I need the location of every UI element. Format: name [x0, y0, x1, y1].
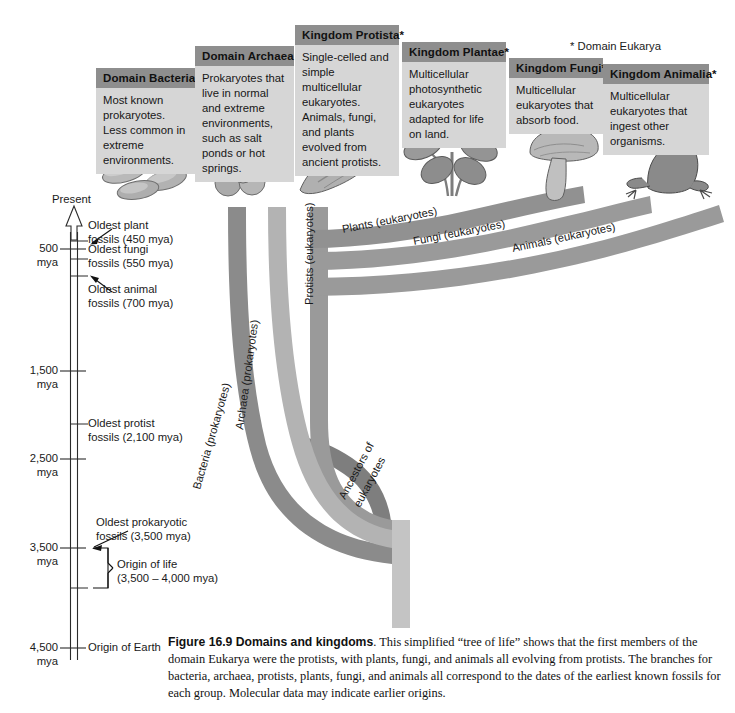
- branch-trunk: [392, 520, 410, 628]
- card-kingdom-animalia: Kingdom Animalia* Multicellular eukaryot…: [603, 64, 709, 155]
- branch-label-protists: Protists (eukaryotes): [303, 202, 315, 305]
- branch-label-bacteria: Bacteria (prokaryotes): [190, 381, 232, 490]
- footnote-domain-eukarya: * Domain Eukarya: [570, 40, 661, 52]
- timeline-tick-500-label: 500 mya: [14, 242, 58, 270]
- timeline-event-animal-fossils: Oldest animal fossils (700 mya): [88, 283, 173, 311]
- card-body-kingdom-protista: Single-celled and simple multicellular e…: [295, 45, 399, 176]
- card-title-domain-archaea: Domain Archaea: [195, 46, 294, 66]
- timeline-event-protist-fossils: Oldest protist fossils (2,100 mya): [88, 417, 183, 445]
- timeline-tick-2500-label: 2,500 mya: [14, 452, 58, 480]
- card-body-domain-bacteria: Most known prokaryotes. Less common in e…: [96, 88, 197, 174]
- card-domain-bacteria: Domain Bacteria Most known prokaryotes. …: [96, 68, 197, 174]
- card-kingdom-fungi: Kingdom Fungi* Multicellular eukaryotes …: [509, 58, 603, 134]
- card-body-kingdom-plantae: Multicellular photosynthetic eukaryotes …: [402, 62, 506, 148]
- card-title-domain-bacteria: Domain Bacteria: [96, 68, 197, 88]
- timeline-tick-3500-label: 3,500 mya: [14, 541, 58, 569]
- timeline-event-origin-of-life: Origin of life (3,500 – 4,000 mya): [117, 558, 218, 586]
- timeline-tick-1500-label: 1,500 mya: [14, 364, 58, 392]
- timeline-present-label: Present: [52, 193, 91, 207]
- card-title-kingdom-animalia: Kingdom Animalia*: [603, 64, 709, 84]
- card-domain-archaea: Domain Archaea Prokaryotes that live in …: [195, 46, 294, 182]
- card-title-kingdom-plantae: Kingdom Plantae*: [402, 42, 506, 62]
- timeline-origin-of-earth-label: Origin of Earth: [88, 641, 161, 655]
- timeline-arrow-icon: [66, 206, 82, 240]
- card-body-kingdom-fungi: Multicellular eukaryotes that absorb foo…: [509, 78, 603, 134]
- card-kingdom-protista: Kingdom Protista* Single-celled and simp…: [295, 25, 399, 176]
- card-body-kingdom-animalia: Multicellular eukaryotes that ingest oth…: [603, 84, 709, 155]
- figure-caption-title: Figure 16.9 Domains and kingdoms: [168, 635, 373, 649]
- card-body-domain-archaea: Prokaryotes that live in normal and extr…: [195, 66, 294, 182]
- card-title-kingdom-protista: Kingdom Protista*: [295, 25, 399, 45]
- timeline-event-fungi-fossils: Oldest fungi fossils (550 mya): [88, 243, 173, 271]
- figure-caption: Figure 16.9 Domains and kingdoms. This s…: [168, 634, 728, 701]
- figure-16-9-domains-and-kingdoms: Bacteria (prokaryotes) Archaea (prokaryo…: [0, 0, 735, 713]
- timeline-tick-4500-label: 4,500 mya: [14, 641, 58, 669]
- card-kingdom-plantae: Kingdom Plantae* Multicellular photosynt…: [402, 42, 506, 148]
- timeline-event-prokaryotic-fossils: Oldest prokaryotic fossils (3,500 mya): [96, 516, 191, 544]
- card-title-kingdom-fungi: Kingdom Fungi*: [509, 58, 603, 78]
